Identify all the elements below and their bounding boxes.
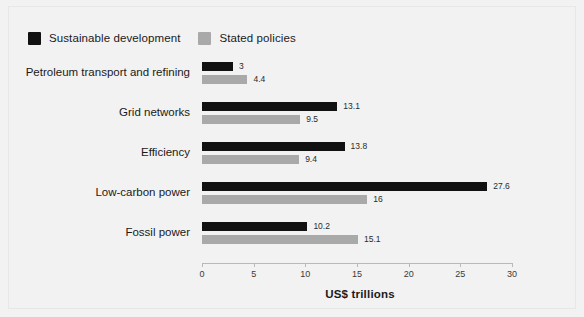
legend-item-stated-policies: Stated policies <box>198 32 295 45</box>
x-axis-tick-label: 20 <box>404 269 414 280</box>
bar-1[interactable] <box>202 75 247 84</box>
bar-0[interactable] <box>202 182 487 191</box>
x-axis-tick-mark <box>357 263 358 267</box>
legend-swatch-sustainable-development <box>28 32 41 45</box>
bar-value-label: 9.5 <box>306 113 318 126</box>
x-axis-tick-mark <box>202 263 203 267</box>
legend-item-sustainable-development: Sustainable development <box>28 32 180 45</box>
bar-value-label: 10.2 <box>313 220 330 233</box>
bar-value-label: 13.8 <box>351 140 368 153</box>
bar-value-label: 3 <box>239 60 244 73</box>
category-label: Fossil power <box>8 226 190 239</box>
bar-value-label: 4.4 <box>253 73 265 86</box>
category-label: Grid networks <box>8 106 190 119</box>
bar-0[interactable] <box>202 102 337 111</box>
legend-swatch-stated-policies <box>198 32 211 45</box>
bar-0[interactable] <box>202 222 307 231</box>
chart-category-row: Efficiency13.89.4 <box>0 142 584 172</box>
x-axis-tick-label: 30 <box>507 269 517 280</box>
bar-1[interactable] <box>202 195 367 204</box>
category-bar-group: 34.4 <box>202 62 584 92</box>
bar-chart-card: Sustainable development Stated policies … <box>0 0 584 317</box>
x-axis-tick-label: 5 <box>251 269 256 280</box>
x-axis-tick-label: 0 <box>199 269 204 280</box>
x-axis-tick-label: 15 <box>352 269 362 280</box>
x-axis-tick-label: 25 <box>455 269 465 280</box>
bar-value-label: 13.1 <box>343 100 360 113</box>
category-label: Efficiency <box>8 146 190 159</box>
x-axis-tick-mark <box>254 263 255 267</box>
plot-area: Petroleum transport and refining34.4Grid… <box>0 62 584 262</box>
category-bar-group: 10.215.1 <box>202 222 584 252</box>
chart-category-row: Fossil power10.215.1 <box>0 222 584 252</box>
bar-value-label: 16 <box>373 193 382 206</box>
chart-category-row: Petroleum transport and refining34.4 <box>0 62 584 92</box>
bar-1[interactable] <box>202 155 299 164</box>
x-axis-tick-mark <box>512 263 513 267</box>
category-bar-group: 13.89.4 <box>202 142 584 172</box>
category-bar-group: 13.19.5 <box>202 102 584 132</box>
bar-1[interactable] <box>202 115 300 124</box>
x-axis-title: US$ trillions <box>0 288 584 300</box>
bar-0[interactable] <box>202 142 345 151</box>
chart-legend: Sustainable development Stated policies <box>28 30 296 46</box>
bar-value-label: 27.6 <box>493 180 510 193</box>
category-label: Petroleum transport and refining <box>8 66 190 79</box>
bar-0[interactable] <box>202 62 233 71</box>
x-axis-tick-mark <box>460 263 461 267</box>
category-bar-group: 27.616 <box>202 182 584 212</box>
bar-value-label: 9.4 <box>305 153 317 166</box>
legend-label-stated-policies: Stated policies <box>219 32 295 45</box>
category-label: Low-carbon power <box>8 186 190 199</box>
bar-1[interactable] <box>202 235 358 244</box>
chart-category-row: Grid networks13.19.5 <box>0 102 584 132</box>
x-axis-tick-label: 10 <box>300 269 310 280</box>
x-axis-tick-mark <box>409 263 410 267</box>
x-axis-tick-mark <box>305 263 306 267</box>
x-axis-title-text: US$ trillions <box>325 288 395 300</box>
bar-value-label: 15.1 <box>364 233 381 246</box>
chart-category-row: Low-carbon power27.616 <box>0 182 584 212</box>
legend-label-sustainable-development: Sustainable development <box>49 32 180 45</box>
